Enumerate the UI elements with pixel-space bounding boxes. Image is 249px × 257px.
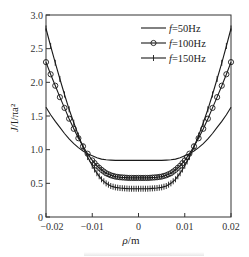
- x-tick-label: 0.01: [176, 221, 194, 232]
- legend-label: f=100Hz: [169, 38, 206, 49]
- y-tick-label: 2.0: [31, 77, 44, 88]
- legend-item: f=50Hz: [141, 23, 201, 34]
- y-tick-label: 0.5: [31, 178, 44, 189]
- series-line: [46, 107, 231, 160]
- series-f-150hz: [46, 25, 231, 191]
- figure-caption-cropped: [84, 252, 204, 256]
- series-f-50hz: [46, 107, 231, 160]
- legend-item: f=150Hz: [141, 53, 206, 64]
- legend: f=50Hzf=100Hzf=150Hz: [141, 23, 206, 64]
- y-tick-label: 2.5: [31, 43, 44, 54]
- x-axis: −0.02−0.0100.010.02: [40, 213, 239, 232]
- y-axis-title: J/I/πa²: [8, 103, 20, 132]
- chart: −0.02−0.0100.010.02 00.51.01.52.02.53.0 …: [0, 0, 249, 257]
- series-layer: [43, 25, 233, 191]
- y-tick-label: 1.5: [31, 111, 44, 122]
- y-tick-label: 3.0: [31, 10, 44, 21]
- x-tick-label: −0.01: [81, 221, 104, 232]
- y-tick-label: 0: [38, 212, 43, 223]
- y-axis: 00.51.01.52.02.53.0: [31, 10, 51, 223]
- series-f-100hz: [43, 60, 233, 181]
- y-tick-label: 1.0: [31, 144, 44, 155]
- x-tick-label: 0: [136, 221, 141, 232]
- legend-label: f=150Hz: [169, 53, 206, 64]
- x-tick-label: 0.02: [222, 221, 240, 232]
- legend-item: f=100Hz: [141, 38, 206, 49]
- x-tick-label: −0.02: [40, 221, 63, 232]
- x-axis-title: ρ/m: [122, 234, 140, 246]
- legend-label: f=50Hz: [169, 23, 201, 34]
